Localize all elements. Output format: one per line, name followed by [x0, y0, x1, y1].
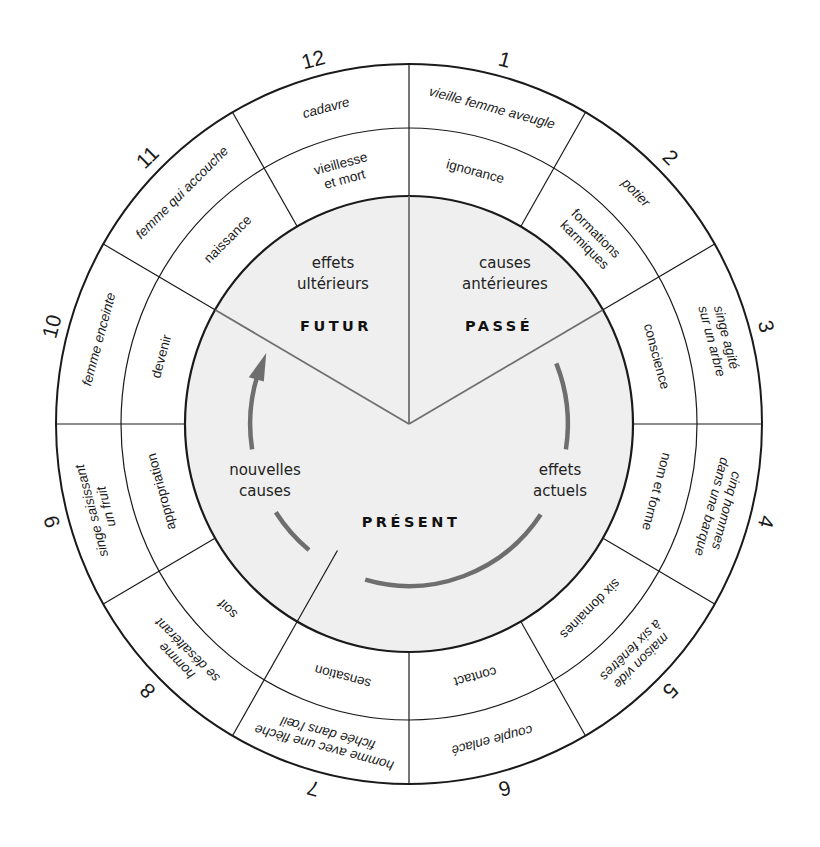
outer-label-12-text: cadavre: [301, 94, 351, 121]
outer-label-2: potier: [618, 174, 654, 210]
passe-label: PASSÉ: [465, 318, 533, 334]
middle-label-10-text: devenir: [148, 333, 174, 380]
effets-actuels-label: actuels: [533, 482, 587, 500]
outer-label-6: couple enlacé: [450, 722, 534, 758]
outer-label-1-text: vieille femme aveugle: [427, 84, 556, 132]
present-label: PRÉSENT: [362, 514, 461, 530]
outer-label-6-text: couple enlacé: [450, 722, 534, 758]
segment-number-3: 3: [754, 318, 779, 335]
middle-label-3: conscience: [641, 322, 673, 391]
outer-label-4: cinq hommesdans une barque: [692, 456, 747, 562]
middle-label-10: devenir: [148, 333, 174, 380]
spoke-line: [103, 538, 215, 604]
segment-number-1: 1: [496, 47, 513, 72]
passe-sublabel: antérieures: [462, 275, 548, 293]
futur-label: FUTUR: [300, 318, 372, 334]
middle-label-1-text: ignorance: [445, 156, 506, 186]
middle-label-9: appropriation: [144, 452, 179, 532]
segment-number-9: 9: [39, 513, 64, 530]
middle-label-8: soif: [215, 596, 241, 622]
middle-label-1: ignorance: [445, 156, 506, 186]
middle-label-7: sensation: [313, 662, 373, 691]
segment-number-7: 7: [305, 776, 322, 801]
outer-label-10: femme enceinte: [79, 291, 118, 388]
middle-label-6: contact: [452, 664, 498, 690]
segment-number-8: 8: [135, 679, 160, 704]
middle-label-9-text: appropriation: [144, 452, 179, 532]
segment-number-4: 4: [754, 513, 779, 531]
outer-label-10-text: femme enceinte: [79, 291, 118, 388]
outer-label-1: vieille femme aveugle: [427, 84, 556, 132]
segment-number-12: 12: [299, 45, 328, 73]
segment-number-6: 6: [496, 776, 513, 801]
passe-sublabel: causes: [479, 254, 531, 272]
nouvelles-causes-label: nouvelles: [229, 461, 301, 479]
outer-label-9: singe saisissantun fruit: [72, 458, 126, 559]
spoke-line: [521, 621, 586, 735]
segment-number-2: 2: [658, 145, 683, 170]
segment-number-11: 11: [131, 141, 163, 173]
segment-number-5: 5: [658, 679, 683, 704]
outer-label-2-text: potier: [618, 174, 654, 210]
middle-label-8-text: soif: [215, 596, 241, 622]
spoke-line: [103, 244, 215, 310]
middle-label-3-text: conscience: [641, 322, 673, 391]
middle-label-6-text: contact: [452, 664, 498, 690]
middle-label-4-text: nom et forme: [639, 451, 674, 532]
middle-label-11: naissance: [201, 212, 255, 266]
futur-sublabel: effets: [312, 254, 355, 272]
middle-label-7-text: sensation: [313, 662, 373, 691]
middle-label-4: nom et forme: [639, 451, 674, 532]
wheel-svg: 123456789101112 vieille femme aveuglepot…: [0, 0, 820, 847]
outer-label-7: homme avec une flèchefichée dans l'œil: [253, 707, 399, 773]
middle-label-12: vieillesseet mort: [312, 149, 373, 193]
spoke-line: [233, 112, 298, 226]
nouvelles-causes-label: causes: [239, 482, 291, 500]
effets-actuels-label: effets: [539, 461, 582, 479]
outer-label-3: singe agitésur un arbre: [695, 300, 743, 378]
middle-label-11-text: naissance: [201, 212, 255, 266]
futur-sublabel: ultérieurs: [297, 275, 369, 293]
segment-number-10: 10: [37, 312, 65, 341]
outer-label-12: cadavre: [301, 94, 351, 121]
